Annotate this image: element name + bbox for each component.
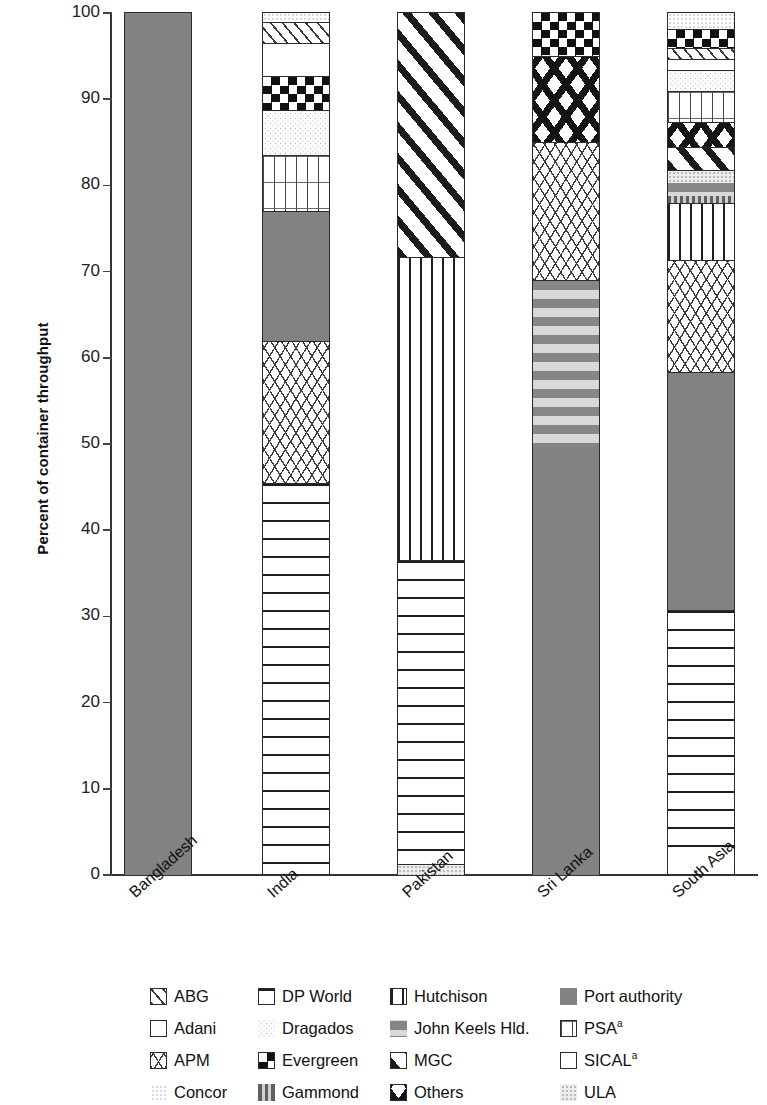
y-axis-label: 60 [40, 347, 100, 367]
y-axis-tick [103, 788, 112, 790]
swatch-vertical-lines-icon [390, 988, 407, 1005]
legend-item-psa[interactable]: PSAa [560, 1018, 740, 1038]
segment-others [533, 56, 599, 142]
y-axis-label: 10 [40, 778, 100, 798]
legend-label: Hutchison [414, 987, 487, 1006]
legend-label: Dragados [282, 1019, 354, 1038]
legend-item-gammond[interactable]: Gammond [258, 1083, 390, 1102]
swatch-empty-white-icon [150, 1020, 167, 1037]
legend-item-mgc[interactable]: MGC [390, 1051, 560, 1070]
legend-label: MGC [414, 1051, 453, 1070]
bar-sri-lanka [532, 12, 600, 875]
segment-mgc [668, 147, 734, 169]
segment-sical [668, 59, 734, 70]
swatch-crosshatch-light-icon [150, 1052, 167, 1069]
segment-psa [263, 155, 329, 211]
bar-pakistan [397, 12, 465, 875]
legend-item-ula[interactable]: ULA [560, 1083, 740, 1102]
y-axis-tick [103, 443, 112, 445]
legend-label: SICALa [584, 1050, 637, 1070]
legend-item-hutchison[interactable]: Hutchison [390, 987, 560, 1006]
bar-india [262, 12, 330, 875]
swatch-light-dots-icon [150, 1084, 167, 1101]
y-axis-tick [103, 616, 112, 618]
swatch-speckle-light-icon [258, 1020, 275, 1037]
swatch-grid-icon [560, 1020, 577, 1037]
segment-port-authority [125, 13, 191, 875]
swatch-horizontal-lines-icon [258, 988, 275, 1005]
y-axis-label: 40 [40, 519, 100, 539]
y-axis-label: 30 [40, 605, 100, 625]
legend-label: APM [174, 1051, 210, 1070]
segment-evergreen [668, 29, 734, 49]
swatch-gray-stripes-icon [390, 1020, 407, 1037]
y-axis-label: 80 [40, 174, 100, 194]
y-axis-label: 70 [40, 261, 100, 281]
segment-evergreen [533, 13, 599, 56]
legend-item-john-keels-hld-[interactable]: John Keels Hld. [390, 1019, 560, 1038]
swatch-diagonal-lines-bold-icon [390, 1052, 407, 1069]
legend-row: ABGDP WorldHutchisonPort authority [150, 980, 750, 1012]
legend-label: ULA [584, 1083, 616, 1102]
swatch-bold-diamond-x-icon [390, 1084, 407, 1101]
legend-label: Port authority [584, 987, 682, 1006]
legend-footnote-marker: a [617, 1018, 623, 1029]
y-axis-tick [103, 12, 112, 14]
segment-port-authority [668, 372, 734, 611]
legend-label: ABG [174, 987, 209, 1006]
swatch-solid-gray-icon [560, 988, 577, 1005]
segment-port-authority [263, 211, 329, 340]
segment-apm [533, 142, 599, 280]
swatch-checkerboard-icon [258, 1052, 275, 1069]
segment-abg [668, 48, 734, 58]
y-axis-label: 50 [40, 433, 100, 453]
bar-bangladesh [124, 12, 192, 875]
legend-item-others[interactable]: Others [390, 1083, 560, 1102]
legend-label: PSAa [584, 1018, 623, 1038]
segment-evergreen [263, 76, 329, 110]
legend-label: Concor [174, 1083, 227, 1102]
legend-row: AdaniDragadosJohn Keels Hld.PSAa [150, 1012, 750, 1044]
legend-item-dragados[interactable]: Dragados [258, 1019, 390, 1038]
y-axis-tick [103, 357, 112, 359]
segment-ula [668, 170, 734, 183]
segment-apm [668, 260, 734, 371]
legend-label: Others [414, 1083, 464, 1102]
swatch-light-gray-speckle-icon [560, 1084, 577, 1101]
legend-label: Adani [174, 1019, 216, 1038]
legend-item-port-authority[interactable]: Port authority [560, 987, 740, 1006]
legend-item-adani[interactable]: Adani [150, 1019, 258, 1038]
segment-gammond [668, 196, 734, 203]
legend-label: Gammond [282, 1083, 359, 1102]
segment-john-keels-hld- [668, 183, 734, 196]
legend-footnote-marker: a [632, 1050, 638, 1061]
legend-item-concor[interactable]: Concor [150, 1083, 258, 1102]
y-axis-tick [103, 529, 112, 531]
y-axis-tick [103, 702, 112, 704]
legend-row: ConcorGammondOthersULA [150, 1076, 750, 1105]
swatch-empty-white-icon [560, 1052, 577, 1069]
legend-item-evergreen[interactable]: Evergreen [258, 1051, 390, 1070]
segment-others [668, 122, 734, 147]
chart-legend: ABGDP WorldHutchisonPort authorityAdaniD… [150, 980, 750, 1105]
segment-concor [668, 13, 734, 29]
segment-abg [263, 22, 329, 44]
segment-psa [668, 91, 734, 122]
legend-item-dp-world[interactable]: DP World [258, 987, 390, 1006]
y-axis-tick [103, 874, 112, 876]
segment-dp-world [398, 560, 464, 863]
y-axis-label: 90 [40, 88, 100, 108]
legend-item-apm[interactable]: APM [150, 1051, 258, 1070]
segment-port-authority [533, 447, 599, 875]
segment-apm [263, 341, 329, 483]
legend-item-sical[interactable]: SICALa [560, 1050, 740, 1070]
y-axis-label: 20 [40, 692, 100, 712]
y-axis-tick [103, 271, 112, 273]
legend-item-abg[interactable]: ABG [150, 987, 258, 1006]
swatch-vertical-gray-bars-icon [258, 1084, 275, 1101]
segment-adani [263, 43, 329, 76]
y-axis-tick [103, 185, 112, 187]
segment-mgc [398, 13, 464, 257]
y-axis-tick [103, 98, 112, 100]
y-axis-label: 100 [40, 2, 100, 22]
